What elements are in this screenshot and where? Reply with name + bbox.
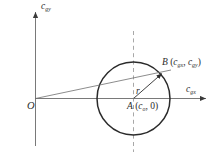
y-axis-label: cgy <box>41 2 51 12</box>
point-b-x-base: c <box>173 57 177 67</box>
point-b-close: ) <box>198 57 201 67</box>
point-a-coord-base: c <box>138 101 142 111</box>
secant-line-origin-to-b <box>36 70 172 99</box>
geometry-figure: cgy cgx O A (co, 0) B (cgx, cgy) r <box>0 0 217 160</box>
point-a-coord-subscript: o <box>143 106 146 112</box>
x-axis-label: cgx <box>186 85 196 95</box>
figure-canvas <box>0 0 217 160</box>
point-b-y-subscript: gy <box>192 62 198 68</box>
radius-label: r <box>136 87 140 97</box>
point-a-label: A (co, 0) <box>127 102 158 112</box>
origin-label: O <box>27 101 35 112</box>
point-b-label: B (cgx, cgy) <box>162 58 201 68</box>
y-axis-label-subscript: gy <box>45 6 51 12</box>
x-axis-label-subscript: gx <box>190 89 196 95</box>
point-a-coord-rest: , 0) <box>146 101 159 111</box>
point-b-x-subscript: gx <box>178 62 184 68</box>
